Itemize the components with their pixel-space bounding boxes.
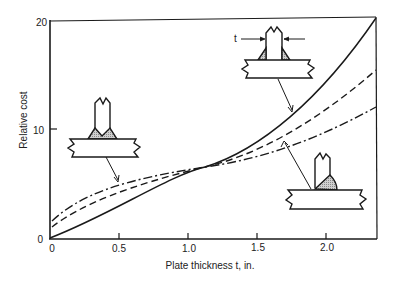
x-ticks	[119, 233, 326, 239]
y-tick-label-0: 0	[37, 234, 43, 245]
thickness-label: t	[234, 33, 237, 44]
relative-cost-chart: 0 0.5 1.0 1.5 2.0 0 10 20 Plate thicknes…	[0, 0, 396, 283]
base-plate	[242, 60, 314, 78]
top-border	[50, 17, 376, 21]
x-tick-label-1-5: 1.5	[251, 242, 265, 253]
double-fillet-weld-sketch	[241, 27, 314, 112]
weld-bead-right	[282, 48, 290, 60]
y-axis-title: Relative cost	[18, 91, 29, 148]
y-tick-label-10: 10	[33, 125, 45, 136]
base-plate	[68, 139, 140, 157]
x-tick-label-0-5: 0.5	[112, 243, 126, 254]
double-v-weld-sketch	[68, 98, 140, 182]
y-tick-label-20: 20	[36, 17, 48, 28]
x-tick-label-2-0: 2.0	[320, 242, 334, 253]
x-tick-label-0: 0	[49, 243, 55, 254]
right-border	[376, 17, 377, 239]
base-plate	[286, 190, 366, 209]
x-tick-label-1-0: 1.0	[182, 243, 196, 254]
x-axis-title: Plate thickness t, in.	[166, 260, 255, 271]
weld-bead-left	[258, 48, 266, 60]
single-bevel-weld-sketch	[281, 141, 366, 209]
